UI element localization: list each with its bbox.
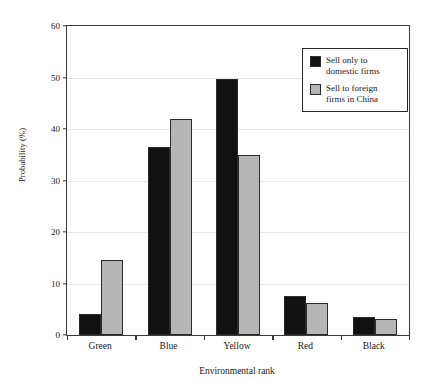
bar-yellow-domestic [216,79,238,335]
bar-group-blue [148,26,192,335]
y-tick-label: 0 [32,330,67,340]
legend-label-foreign-line1: Sell to foreign [326,83,378,93]
y-axis-label: Probability (%) [17,95,27,215]
x-tick-mark [341,335,342,340]
x-tick-label-black: Black [329,341,419,351]
x-tick-mark [204,335,205,340]
bar-yellow-foreign [238,155,260,335]
legend-label-foreign-line2: firms in China [326,94,378,104]
y-tick-label: 40 [32,124,67,134]
legend-label-foreign: Sell to foreign firms in China [326,83,378,105]
bar-group-yellow [216,26,260,335]
y-tick-label: 30 [32,176,67,186]
legend-swatch-light-icon [310,84,321,95]
bar-blue-domestic [148,147,170,335]
legend: Sell only to domestic firms Sell to fore… [302,48,408,112]
bar-blue-foreign [170,119,192,335]
legend-swatch-dark-icon [310,56,321,67]
legend-item-domestic: Sell only to domestic firms [310,55,401,77]
legend-label-domestic-line1: Sell only to [326,55,368,65]
y-tick-label: 10 [32,279,67,289]
bar-red-foreign [306,303,328,335]
bar-chart-figure: Probability (%) 0102030405060 Environmen… [0,0,439,389]
legend-label-domestic-line2: domestic firms [326,66,380,76]
x-tick-mark [135,335,136,340]
x-axis-label: Environmental rank [66,366,408,376]
bar-green-domestic [79,314,101,335]
y-tick-label: 20 [32,227,67,237]
y-tick-label: 60 [32,21,67,31]
y-tick-label: 50 [32,73,67,83]
bar-red-domestic [284,296,306,335]
x-tick-mark [409,335,410,340]
legend-label-domestic: Sell only to domestic firms [326,55,380,77]
bar-group-green [79,26,123,335]
bar-black-foreign [375,319,397,335]
bar-black-domestic [353,317,375,335]
x-tick-mark [272,335,273,340]
legend-item-foreign: Sell to foreign firms in China [310,83,401,105]
x-tick-mark [67,335,68,340]
bar-green-foreign [101,260,123,335]
